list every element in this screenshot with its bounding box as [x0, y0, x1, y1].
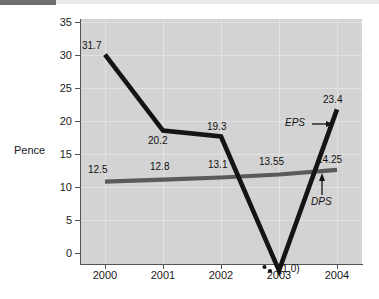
eps-low-marker — [268, 269, 272, 273]
data-label-dps-2001: 12.8 — [150, 162, 169, 172]
data-label-dps-2003: 13.55 — [259, 157, 284, 167]
dps-annotation-arrow — [319, 173, 325, 195]
series-overlay — [0, 0, 379, 299]
data-label-eps-2000: 31.7 — [82, 41, 101, 51]
chart-figure: 35 30 25 20 15 10 5 0 2000 2001 2002 200… — [0, 0, 379, 299]
data-label-eps-2001: 20.2 — [148, 136, 167, 146]
data-label-dps-2000: 12.5 — [88, 165, 107, 175]
series-label-dps: DPS — [311, 197, 332, 207]
data-label-dps-2004: 14.25 — [317, 155, 342, 165]
data-label-eps-2004: 23.4 — [323, 95, 342, 105]
dps-line — [105, 170, 337, 182]
data-label-eps-2003: (1.0) — [279, 264, 300, 274]
series-label-eps: EPS — [285, 118, 305, 128]
data-label-dps-2002: 13.1 — [208, 160, 227, 170]
eps-low-marker — [262, 265, 266, 269]
data-label-eps-2002: 19.3 — [207, 122, 226, 132]
